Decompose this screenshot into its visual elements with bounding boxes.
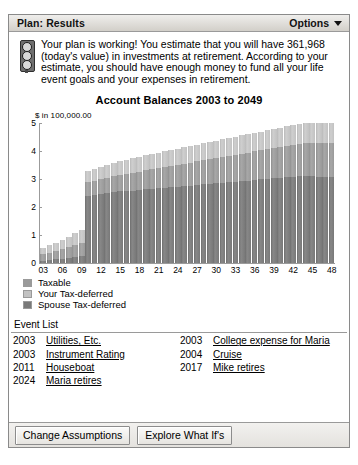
change-assumptions-button[interactable]: Change Assumptions bbox=[15, 426, 130, 445]
chart-plot-area bbox=[40, 123, 335, 263]
event-link[interactable]: College expense for Maria bbox=[213, 335, 330, 346]
chart-bar-segment bbox=[104, 165, 110, 178]
chart-x-tick-label: 42 bbox=[289, 265, 298, 275]
chart-bar-segment bbox=[117, 175, 123, 192]
chart-bar-segment bbox=[252, 180, 258, 263]
chart-bar-segment bbox=[297, 144, 303, 176]
chart-bar-segment bbox=[104, 178, 110, 194]
chart-bar-segment bbox=[201, 143, 207, 160]
event-link[interactable]: Maria retires bbox=[46, 375, 102, 386]
chart-bar-segment bbox=[213, 183, 219, 263]
chart-bar-segment bbox=[98, 179, 104, 194]
event-link[interactable]: Utilities, Etc. bbox=[46, 335, 101, 346]
chart-bar-segment bbox=[265, 179, 271, 264]
chart-bar-segment bbox=[303, 123, 309, 143]
chart-bar-segment bbox=[239, 181, 245, 263]
chart-bar-segment bbox=[213, 141, 219, 158]
chart-bar-segment bbox=[322, 177, 328, 263]
chart-bar-segment bbox=[284, 177, 290, 263]
status-message-text: Your plan is working! You estimate that … bbox=[41, 38, 341, 85]
chart-bar-segment bbox=[79, 243, 85, 256]
chart-x-tick-label: 15 bbox=[115, 265, 124, 275]
chart-bar bbox=[328, 123, 334, 263]
options-menu-button[interactable]: Options bbox=[289, 17, 342, 29]
chart-bar-segment bbox=[111, 163, 117, 176]
chart-bar-segment bbox=[79, 230, 85, 243]
chart-bar-segment bbox=[72, 245, 78, 257]
chart-y-tick-label: 3 bbox=[27, 175, 36, 183]
status-message: Your plan is working! You estimate that … bbox=[9, 32, 349, 85]
chart-bar-segment bbox=[277, 178, 283, 264]
chart-bar-segment bbox=[181, 186, 187, 263]
chart-bar-segment bbox=[47, 245, 53, 252]
chart-x-tick-label: 06 bbox=[58, 265, 67, 275]
button-bar: Change Assumptions Explore What If's bbox=[9, 422, 349, 447]
chart-bar-segment bbox=[226, 138, 232, 156]
chart-bar-segment bbox=[53, 259, 59, 263]
legend-item: Your Tax-deferred bbox=[23, 288, 349, 299]
event-list-item: 2003Instrument Rating bbox=[13, 348, 180, 361]
chart-bar-segment bbox=[66, 237, 72, 247]
chart-bar-segment bbox=[79, 256, 85, 264]
chart-bar-segment bbox=[322, 123, 328, 143]
event-link[interactable]: Cruise bbox=[213, 349, 242, 360]
chart-x-tick-label: 12 bbox=[96, 265, 105, 275]
chart-bar-segment bbox=[92, 169, 98, 181]
chart-bar-segment bbox=[117, 191, 123, 263]
chart-bar-segment bbox=[85, 196, 91, 263]
chart-bar-segment bbox=[271, 148, 277, 178]
event-year: 2024 bbox=[13, 375, 46, 386]
chart-bar-segment bbox=[162, 167, 168, 188]
chart-bar-segment bbox=[188, 146, 194, 163]
chart-bar-segment bbox=[309, 123, 315, 143]
chart-bar-segment bbox=[47, 253, 53, 260]
legend-item: Spouse Tax-deferred bbox=[23, 299, 349, 310]
chart-x-axis bbox=[39, 263, 335, 264]
chart-y-tick bbox=[39, 263, 42, 264]
event-list-title: Event List bbox=[14, 319, 349, 330]
event-year: 2017 bbox=[180, 362, 213, 373]
event-year: 2011 bbox=[13, 362, 46, 373]
legend-swatch bbox=[23, 290, 32, 298]
chart-bar-segment bbox=[233, 182, 239, 264]
legend-label: Taxable bbox=[38, 277, 71, 288]
chart-y-tick-label: 5 bbox=[27, 119, 36, 127]
chart-bar-segment bbox=[207, 159, 213, 184]
chart-bar-segment bbox=[53, 243, 59, 251]
chart-x-tick-label: 33 bbox=[231, 265, 240, 275]
chart-bar-segment bbox=[271, 178, 277, 263]
chart-x-tick-label: 30 bbox=[212, 265, 221, 275]
chart-bar-segment bbox=[233, 155, 239, 182]
event-link[interactable]: Houseboat bbox=[46, 362, 94, 373]
chart-x-tick-label: 48 bbox=[327, 265, 336, 275]
legend-item: Taxable bbox=[23, 277, 349, 288]
chart-bar-segment bbox=[175, 187, 181, 264]
chart-bar-segment bbox=[60, 240, 66, 249]
chart-bar-segment bbox=[66, 258, 72, 264]
chevron-down-icon bbox=[334, 21, 342, 26]
event-list-item: 2011Houseboat bbox=[13, 361, 180, 374]
chart-bar-segment bbox=[303, 143, 309, 176]
chart-bar-segment bbox=[233, 137, 239, 155]
chart-bar-segment bbox=[201, 160, 207, 184]
plan-results-panel: Plan: Results Options Your plan is worki… bbox=[8, 14, 350, 448]
chart-bar-segment bbox=[277, 128, 283, 147]
chart-x-tick-label: 27 bbox=[192, 265, 201, 275]
chart-x-tick-label: 21 bbox=[154, 265, 163, 275]
chart-bar-segment bbox=[124, 191, 130, 263]
chart-bar-segment bbox=[252, 133, 258, 151]
chart-bar-segment bbox=[290, 145, 296, 177]
event-link[interactable]: Instrument Rating bbox=[46, 349, 125, 360]
chart-bar-segment bbox=[85, 171, 91, 182]
event-link[interactable]: Mike retires bbox=[213, 362, 265, 373]
chart-bar-segment bbox=[207, 142, 213, 159]
chart-bar-segment bbox=[162, 188, 168, 264]
chart-bar-segment bbox=[245, 181, 251, 264]
chart-bar-segment bbox=[136, 172, 142, 190]
chart-bar-segment bbox=[309, 176, 315, 263]
chart-title: Account Balances 2003 to 2049 bbox=[9, 94, 349, 106]
chart-bar-segment bbox=[271, 129, 277, 148]
account-balances-chart: 012345 03060912151821242730333639424548 bbox=[19, 121, 339, 269]
explore-what-ifs-button[interactable]: Explore What If's bbox=[137, 426, 232, 445]
chart-bar-segment bbox=[245, 134, 251, 152]
